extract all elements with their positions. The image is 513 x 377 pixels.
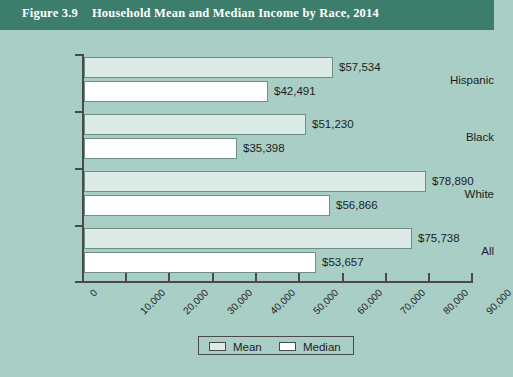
legend-swatch-median-icon [279, 342, 296, 351]
x-axis-tick [342, 273, 344, 283]
bar-white-median[interactable] [84, 195, 330, 216]
x-axis-tick [298, 273, 300, 283]
legend-swatch-mean-icon [209, 342, 226, 351]
x-axis-tick [385, 273, 387, 283]
legend-item-mean[interactable]: Mean [209, 339, 262, 354]
bar-value-white-median: $56,866 [336, 195, 378, 216]
bar-white-mean[interactable] [84, 171, 426, 192]
x-axis-tick-label: 20,000 [181, 287, 210, 316]
x-axis-tick [428, 273, 430, 283]
legend-item-median[interactable]: Median [279, 339, 341, 354]
x-axis-tick [255, 273, 257, 283]
bar-value-black-mean: $51,230 [312, 114, 354, 135]
x-axis-tick-label: 10,000 [138, 287, 167, 316]
bar-value-all-median: $53,657 [322, 252, 364, 273]
bar-value-hispanic-mean: $57,534 [339, 57, 381, 78]
legend-label-mean: Mean [233, 341, 262, 353]
bar-hispanic-median[interactable] [84, 81, 268, 102]
y-axis-tick [75, 111, 82, 113]
category-label-hispanic: Hispanic [420, 74, 494, 86]
chart-legend: Mean Median [198, 336, 354, 355]
category-label-black: Black [420, 131, 494, 143]
x-axis-tick-label: 70,000 [398, 287, 427, 316]
bar-value-hispanic-median: $42,491 [274, 81, 316, 102]
x-axis-tick-label: 90,000 [484, 287, 513, 316]
x-axis-tick-label: 80,000 [441, 287, 470, 316]
x-axis-tick-label: 30,000 [225, 287, 254, 316]
figure-header-banner: Figure 3.9Household Mean and Median Inco… [0, 0, 494, 30]
x-axis-line [82, 281, 473, 283]
x-axis-tick [82, 273, 84, 283]
bar-value-all-mean: $75,738 [418, 228, 460, 249]
y-axis-tick [75, 168, 82, 170]
bar-all-mean[interactable] [84, 228, 412, 249]
bar-value-white-mean: $78,890 [432, 171, 474, 192]
bar-value-black-median: $35,398 [243, 138, 285, 159]
x-axis-tick [212, 273, 214, 283]
figure-number: Figure 3.9 [22, 6, 78, 20]
figure-title: Household Mean and Median Income by Race… [92, 6, 379, 20]
y-axis-tick [75, 54, 82, 56]
x-axis-tick-label: 0 [88, 287, 100, 299]
chart-plot-area: Hispanic $57,534 $42,491 Black $51,230 $… [0, 30, 494, 377]
y-axis-tick [75, 281, 82, 283]
x-axis-tick [168, 273, 170, 283]
x-axis-tick [125, 273, 127, 283]
y-axis-tick [75, 225, 82, 227]
bar-black-median[interactable] [84, 138, 237, 159]
bar-hispanic-mean[interactable] [84, 57, 333, 78]
bar-all-median[interactable] [84, 252, 316, 273]
x-axis-tick-label: 40,000 [268, 287, 297, 316]
x-axis-end-cap [471, 273, 473, 283]
legend-label-median: Median [303, 341, 341, 353]
figure-header-text: Figure 3.9Household Mean and Median Inco… [22, 6, 379, 21]
x-axis-tick-label: 60,000 [355, 287, 384, 316]
bar-black-mean[interactable] [84, 114, 306, 135]
x-axis-tick-label: 50,000 [311, 287, 340, 316]
